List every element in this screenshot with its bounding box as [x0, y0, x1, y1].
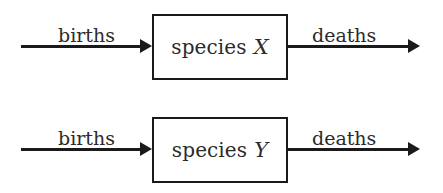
species-box-variable-y: Y: [254, 138, 268, 162]
species-box-label-x: speciesX: [171, 37, 268, 58]
inflow-label-births-x: births: [58, 26, 115, 45]
flow-row-species-y: births speciesY deaths: [0, 103, 443, 193]
species-box-word-y: species: [172, 138, 247, 162]
inflow-arrow-line-y: [21, 148, 146, 151]
outflow-arrowhead-icon-y: [408, 142, 420, 156]
species-box-label-y: speciesY: [172, 140, 268, 161]
inflow-arrow-line-x: [21, 45, 146, 48]
species-box-x: speciesX: [152, 14, 288, 80]
outflow-arrowhead-icon-x: [408, 39, 420, 53]
inflow-arrowhead-icon-y: [140, 142, 152, 156]
species-box-word-x: species: [171, 35, 246, 59]
species-box-y: speciesY: [152, 117, 288, 183]
inflow-label-births-y: births: [58, 129, 115, 148]
species-box-variable-x: X: [254, 35, 269, 59]
inflow-arrowhead-icon-x: [140, 39, 152, 53]
outflow-label-deaths-x: deaths: [312, 26, 376, 45]
outflow-label-deaths-y: deaths: [312, 129, 376, 148]
flow-row-species-x: births speciesX deaths: [0, 0, 443, 96]
birth-death-diagram: births speciesX deaths births speciesY d…: [0, 0, 443, 193]
